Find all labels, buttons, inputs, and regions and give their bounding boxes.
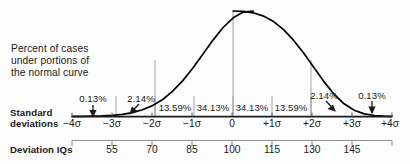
sigma-tick-minus-4: −4σ	[63, 118, 81, 130]
figure-caption: Percent of cases under portions of the n…	[11, 43, 89, 79]
sigma-tick-minus-3: −3σ	[103, 118, 121, 130]
standard-deviations-label-line1: Standard	[10, 107, 52, 118]
sigma-tick-minus-1: −1σ	[183, 118, 201, 130]
curve-graphics	[0, 0, 410, 164]
iq-tick-145: 145	[344, 144, 361, 156]
caption-line-2: under portions of	[11, 55, 89, 67]
percent-callout-left-inner: 2.14%	[127, 93, 154, 104]
percent-band-minus2-minus1: 13.59%	[159, 102, 192, 113]
callout-arrow-right-0-13	[369, 101, 374, 113]
callout-arrow-left-0-13	[90, 105, 95, 116]
sigma-tick-plus-1: +1σ	[263, 118, 281, 130]
caption-line-3: the normal curve	[11, 67, 89, 79]
iq-tick-55: 55	[106, 144, 117, 156]
caption-line-1: Percent of cases	[11, 43, 89, 55]
callout-arrow-left-2-14	[130, 104, 139, 114]
iq-tick-115: 115	[264, 144, 280, 156]
sigma-tick-zero: 0	[229, 118, 235, 130]
percent-band-plus1-plus2: 13.59%	[275, 102, 308, 113]
iq-tick-130: 130	[304, 144, 321, 156]
percent-callout-left-outer: 0.13%	[79, 93, 106, 104]
iq-tick-70: 70	[146, 144, 157, 156]
iq-tick-85: 85	[186, 144, 197, 156]
percent-callout-right-inner: 2.14%	[310, 90, 337, 101]
percent-band-minus1-zero: 34.13%	[197, 102, 230, 113]
iq-tick-100: 100	[224, 144, 241, 156]
sigma-tick-plus-2: +2σ	[303, 118, 321, 130]
callout-arrow-right-2-14	[326, 101, 335, 111]
standard-deviations-label-line2: deviations	[10, 118, 58, 129]
sigma-tick-plus-4: +4σ	[381, 118, 399, 130]
percent-band-zero-plus1: 34.13%	[236, 102, 269, 113]
sigma-tick-minus-2: −2σ	[143, 118, 161, 130]
percent-callout-right-outer: 0.13%	[358, 90, 385, 101]
normal-curve-figure: Percent of cases under portions of the n…	[0, 0, 410, 164]
sigma-tick-plus-3: +3σ	[343, 118, 361, 130]
deviation-iqs-label: Deviation IQs	[10, 144, 73, 155]
